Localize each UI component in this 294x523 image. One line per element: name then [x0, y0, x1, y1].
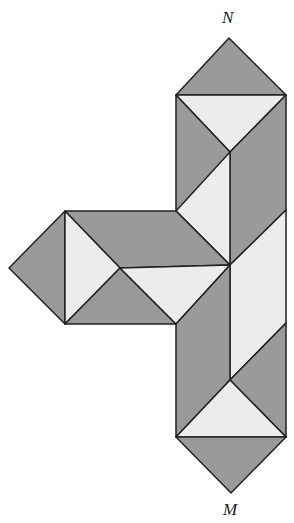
net-figure: [0, 0, 294, 523]
left-triangle: [9, 211, 65, 324]
label-n: N: [222, 8, 233, 28]
top-triangle: [176, 38, 286, 95]
diagram: N M: [0, 0, 294, 523]
bottom-triangle: [176, 437, 286, 493]
label-m: M: [223, 500, 237, 520]
